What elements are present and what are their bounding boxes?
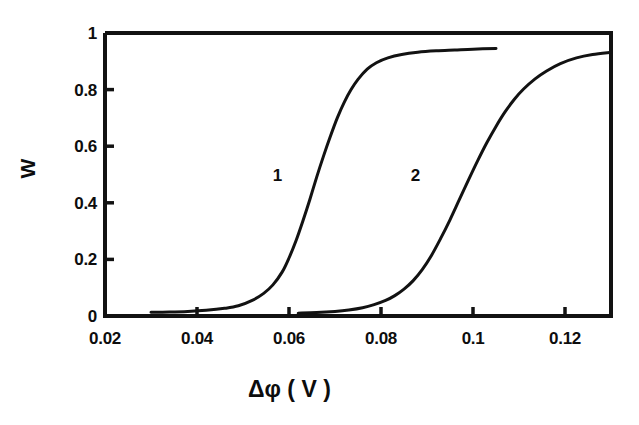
curve-1 <box>151 49 496 313</box>
x-tick-label: 0.04 <box>181 330 213 347</box>
y-tick-label: 0.4 <box>74 194 97 211</box>
curve-label-1: 1 <box>273 166 282 183</box>
x-axis-label: Δφ ( V ) <box>248 378 331 401</box>
y-tick-label: 0 <box>88 308 97 325</box>
y-tick-label: 0.2 <box>74 251 97 268</box>
data-curves <box>151 49 611 314</box>
y-tick-label: 0.6 <box>74 138 97 155</box>
y-tick-label: 0.8 <box>74 81 97 98</box>
figure-container: W Δφ ( V ) 0.020.040.060.080.10.12 00.20… <box>0 0 639 425</box>
x-tick-label: 0.06 <box>273 330 305 347</box>
curve-2 <box>298 52 611 313</box>
curve-label-2: 2 <box>411 166 420 183</box>
x-tick-label: 0.08 <box>365 330 397 347</box>
y-axis-label: W <box>17 159 38 179</box>
x-tick-label: 0.1 <box>462 330 485 347</box>
x-tick-label: 0.12 <box>549 330 581 347</box>
chart-plot-area <box>0 0 639 425</box>
y-tick-label: 1 <box>88 25 97 42</box>
axes-frame <box>105 33 611 316</box>
x-tick-label: 0.02 <box>89 330 121 347</box>
